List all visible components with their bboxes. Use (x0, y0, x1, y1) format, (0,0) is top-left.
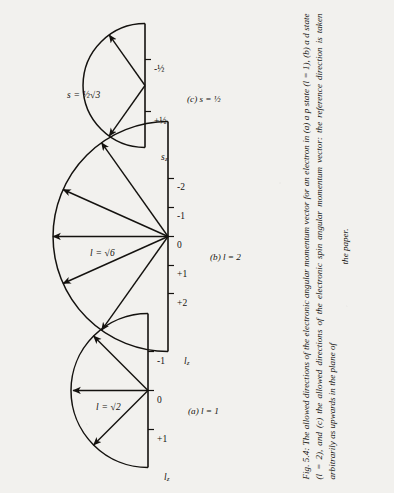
panel-b-vector-m-minus1 (63, 189, 168, 236)
panel-a-axis-label: lz (164, 471, 170, 482)
panel-a-sublabel: (a) l = 1 (188, 405, 219, 415)
panel-c-axis-label: sz (161, 151, 168, 162)
panel-c-tick-label-1: -½ (154, 63, 165, 73)
panel-c-spin: s = ½√3 sz +½ -½ (c) s = ½ (75, 15, 157, 155)
panel-c-magnitude-label: s = ½√3 (67, 89, 100, 99)
caption-line-3: the paper. (339, 13, 352, 479)
panel-b-tick-label-3: -1 (177, 210, 185, 220)
panel-c-sublabel: (c) s = ½ (187, 93, 221, 103)
panel-b-axis-label: lz (184, 355, 190, 366)
panel-c-tick-label-0: +½ (154, 115, 167, 125)
panel-b-sublabel: (b) l = 2 (210, 251, 241, 261)
panel-a-vector-m-plus1 (94, 390, 149, 445)
panel-a-tick-label-0: +1 (157, 433, 168, 443)
panel-b-magnitude-label: l = √6 (90, 247, 115, 257)
panel-b-tick-label-2: 0 (177, 239, 182, 249)
panel-a-magnitude-label: l = √2 (96, 401, 121, 411)
panel-b-tick-label-0: +2 (177, 297, 188, 307)
panel-a-tick-label-1: 0 (157, 394, 162, 404)
panel-b-tick-label-1: +1 (177, 268, 188, 278)
figure-page: l = √2 lz +1 0 -1 (a) l = 1 (0, 0, 394, 493)
caption-line-0: Fig. 5.4: The allowed directions of the … (301, 135, 311, 479)
panel-c-vector-up (109, 85, 145, 136)
panel-b-tick-label-4: -2 (177, 181, 185, 191)
panel-c-diagram (75, 15, 157, 155)
panel-c-vector-down (109, 34, 145, 85)
figure-caption: Fig. 5.4: The allowed directions of the … (300, 13, 352, 479)
